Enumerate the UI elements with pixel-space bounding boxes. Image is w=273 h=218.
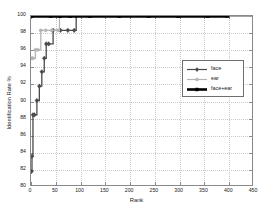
legend-marker-icon xyxy=(186,85,208,94)
y-tick-label: 84 xyxy=(2,149,26,154)
legend-item-face[interactable]: face xyxy=(186,64,240,74)
y-axis-label: Identification Rate % xyxy=(6,63,12,143)
plot-area xyxy=(30,15,253,186)
legend-item-face-plus-ear[interactable]: face+ear xyxy=(186,84,240,94)
x-tick-label: 450 xyxy=(249,188,258,193)
x-tick-label: 50 xyxy=(52,188,58,193)
legend-label: face xyxy=(211,66,221,71)
y-tick-label: 96 xyxy=(2,47,26,52)
legend-label: ear xyxy=(211,76,219,81)
legend-label: face+ear xyxy=(211,86,232,91)
x-tick-label: 0 xyxy=(29,188,32,193)
legend-marker-icon xyxy=(186,65,208,74)
x-tick-label: 200 xyxy=(125,188,134,193)
x-tick-label: 350 xyxy=(199,188,208,193)
y-tick-label: 82 xyxy=(2,166,26,171)
x-tick-label: 150 xyxy=(100,188,109,193)
legend-marker-icon xyxy=(186,75,208,84)
series-face-plus-ear xyxy=(31,16,229,18)
x-axis-label: Rank xyxy=(0,197,273,203)
x-tick-label: 250 xyxy=(150,188,159,193)
series-layer xyxy=(31,16,252,185)
x-tick-label: 100 xyxy=(75,188,84,193)
series-ear xyxy=(31,16,252,60)
y-tick-label: 98 xyxy=(2,29,26,34)
chart-legend[interactable]: faceearface+ear xyxy=(182,60,244,97)
legend-item-ear[interactable]: ear xyxy=(186,74,240,84)
cmc-chart-figure: 0501001502002503003504004508082848688909… xyxy=(0,0,273,218)
y-tick-label: 100 xyxy=(2,12,26,17)
x-tick-label: 400 xyxy=(224,188,233,193)
x-tick-label: 300 xyxy=(174,188,183,193)
y-tick-label: 80 xyxy=(2,183,26,188)
